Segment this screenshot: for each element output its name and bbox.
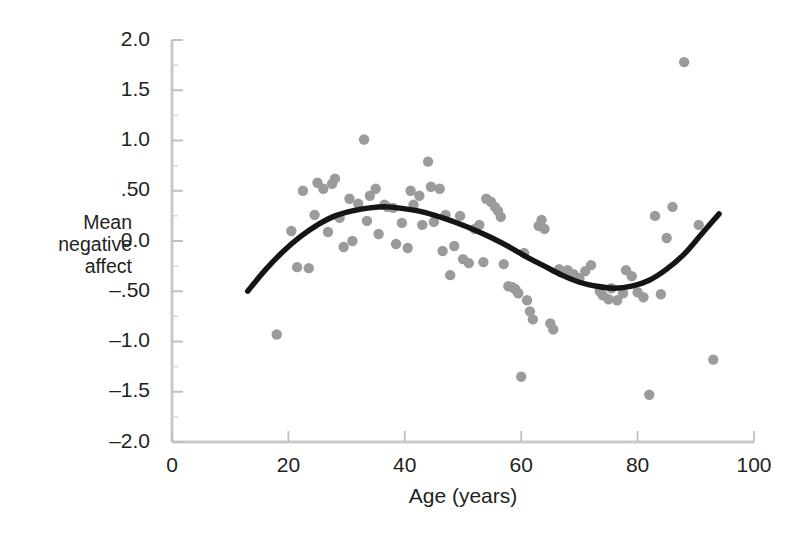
scatter-point: [403, 243, 413, 253]
scatter-point: [359, 134, 369, 144]
x-tick-label: 60: [510, 453, 533, 476]
scatter-point: [694, 220, 704, 230]
scatter-point: [417, 220, 427, 230]
scatter-point: [644, 390, 654, 400]
scatter-point: [638, 292, 648, 302]
scatter-point: [548, 324, 558, 334]
scatter-point: [499, 259, 509, 269]
scatter-point: [627, 271, 637, 281]
scatter-point: [445, 270, 455, 280]
scatter-point: [449, 241, 459, 251]
y-tick-label: –2.0: [109, 429, 150, 452]
scatter-point: [397, 218, 407, 228]
scatter-point: [272, 329, 282, 339]
scatter-point: [323, 227, 333, 237]
scatter-point: [539, 224, 549, 234]
y-axis-ticks: [172, 40, 183, 442]
y-axis-label-line: negative: [58, 233, 132, 255]
scatter-point: [516, 371, 526, 381]
scatter-plot-figure: 2.01.51.0.500.0–.50–1.0–1.5–2.0 02040608…: [0, 0, 801, 541]
scatter-point: [437, 246, 447, 256]
scatter-point: [405, 186, 415, 196]
scatter-point: [650, 211, 660, 221]
x-tick-label: 0: [166, 453, 178, 476]
scatter-point: [371, 184, 381, 194]
scatter-point: [522, 295, 532, 305]
x-axis-title: Age (years): [409, 484, 518, 507]
scatter-point: [344, 194, 354, 204]
x-axis-tick-labels: 020406080100: [166, 453, 771, 476]
x-axis-ticks: [172, 431, 754, 442]
scatter-point: [426, 182, 436, 192]
scatter-point: [309, 210, 319, 220]
scatter-point: [298, 186, 308, 196]
scatter-point: [536, 215, 546, 225]
scatter-point: [362, 216, 372, 226]
scatter-point: [586, 260, 596, 270]
scatter-point: [662, 233, 672, 243]
scatter-point: [528, 314, 538, 324]
y-tick-label: .50: [121, 177, 150, 200]
scatter-point: [464, 258, 474, 268]
scatter-point: [679, 57, 689, 67]
scatter-point: [330, 173, 340, 183]
y-axis-label-line: Mean: [83, 211, 132, 233]
x-tick-label: 20: [277, 453, 300, 476]
scatter-point: [347, 236, 357, 246]
scatter-point: [667, 202, 677, 212]
scatter-point: [478, 257, 488, 267]
y-tick-label: –1.5: [109, 378, 150, 401]
scatter-points-group: [272, 57, 719, 400]
y-tick-label: 1.5: [121, 77, 150, 100]
scatter-point: [391, 239, 401, 249]
scatter-point: [318, 184, 328, 194]
scatter-point: [414, 191, 424, 201]
cubic-fit-line: [248, 207, 719, 291]
x-tick-label: 40: [393, 453, 416, 476]
chart-canvas: 2.01.51.0.500.0–.50–1.0–1.5–2.0 02040608…: [0, 0, 801, 541]
scatter-point: [496, 212, 506, 222]
scatter-point: [304, 263, 314, 273]
scatter-point: [338, 242, 348, 252]
scatter-point: [373, 229, 383, 239]
x-tick-label: 100: [736, 453, 771, 476]
y-tick-label: 2.0: [121, 27, 150, 50]
scatter-point: [455, 211, 465, 221]
scatter-point: [423, 156, 433, 166]
scatter-point: [513, 288, 523, 298]
scatter-point: [286, 226, 296, 236]
y-tick-label: –1.0: [109, 328, 150, 351]
x-tick-label: 80: [626, 453, 649, 476]
y-axis-label: Meannegativeaffect: [58, 211, 132, 277]
scatter-point: [292, 262, 302, 272]
scatter-point: [708, 354, 718, 364]
y-axis-label-line: affect: [85, 255, 133, 277]
scatter-point: [656, 289, 666, 299]
y-tick-label: 1.0: [121, 127, 150, 150]
y-tick-label: –.50: [109, 278, 150, 301]
scatter-point: [435, 184, 445, 194]
